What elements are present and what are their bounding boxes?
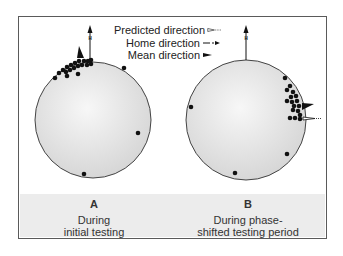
solid-triangle-icon <box>202 51 222 59</box>
panel-b-caption-line1: During phase- <box>186 214 310 227</box>
mean-direction-icon <box>302 103 314 110</box>
legend-home: Home direction <box>114 37 222 50</box>
legend-predicted: Predicted direction <box>114 24 222 37</box>
panel-b-letter: B <box>186 198 310 211</box>
legend-mean: Mean direction <box>114 49 222 62</box>
svg-text:H: H <box>88 36 91 41</box>
legend-home-label: Home direction <box>126 37 200 50</box>
legend-mean-label: Mean direction <box>128 49 200 62</box>
dashed-arrow-icon <box>202 39 222 47</box>
mean-direction-icon <box>77 46 84 58</box>
panel-a-caption-line1: During <box>48 214 140 227</box>
legend: Predicted direction Home direction Mean … <box>114 24 222 62</box>
panel-a-caption-line2: initial testing <box>48 226 140 239</box>
svg-text:H: H <box>244 36 247 41</box>
panel-a-caption: A During initial testing <box>48 198 140 239</box>
panel-b-caption: B During phase- shifted testing period <box>186 198 310 239</box>
legend-predicted-label: Predicted direction <box>114 24 205 37</box>
panel-a-letter: A <box>48 198 140 211</box>
home-arrow-icon: H <box>88 25 93 62</box>
panel-b-caption-line2: shifted testing period <box>186 226 310 239</box>
home-arrow-icon: H <box>244 25 249 60</box>
predicted-direction-icon <box>303 117 322 120</box>
open-triangle-dotted-arrow-icon <box>207 26 222 34</box>
